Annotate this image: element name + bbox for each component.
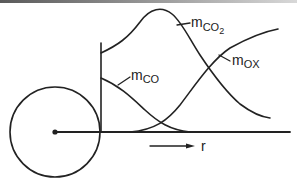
r-axis-label: r [201,138,206,154]
mco2-label: mCO2 [191,14,224,36]
mox-leader [219,55,230,61]
mco-curve [101,78,190,132]
r-arrow-head-icon [186,144,195,149]
diagram-canvas: mCO2 mCO mOX r [0,0,297,187]
mco-label: mCO [131,67,160,85]
mco-leader [118,77,130,85]
particle-center-dot [52,129,57,134]
mco2-leader [177,23,190,25]
mox-label: mOX [232,52,260,70]
